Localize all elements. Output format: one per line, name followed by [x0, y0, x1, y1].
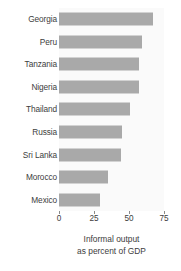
x-axis-tick-label: 25	[89, 214, 98, 223]
bar-track	[59, 188, 164, 211]
bar-track	[59, 8, 164, 31]
bar-row: Morocco	[0, 166, 181, 189]
category-label: Tanzania	[25, 59, 57, 69]
category-label: Mexico	[31, 195, 57, 205]
bar-row: Mexico	[0, 188, 181, 211]
bar	[59, 193, 100, 206]
x-axis-tick-label: 75	[159, 214, 168, 223]
bar-row: Russia	[0, 121, 181, 144]
bar	[59, 148, 121, 161]
bar-row: Thailand	[0, 98, 181, 121]
category-label: Russia	[32, 127, 57, 137]
bar	[59, 35, 142, 48]
bar-track	[59, 76, 164, 99]
bar-track	[59, 98, 164, 121]
category-label: Sri Lanka	[23, 150, 57, 160]
x-axis-tick-label: 0	[57, 214, 62, 223]
bar-chart-figure: GeorgiaPeruTanzaniaNigeriaThailandRussia…	[0, 0, 181, 271]
bar	[59, 171, 108, 184]
caption-line-2: as percent of GDP	[59, 246, 164, 258]
bar-row: Tanzania	[0, 53, 181, 76]
category-label: Georgia	[28, 14, 57, 24]
category-label: Peru	[40, 37, 57, 47]
category-label: Thailand	[26, 104, 57, 114]
bar-row: Nigeria	[0, 76, 181, 99]
bar-rows-container: GeorgiaPeruTanzaniaNigeriaThailandRussia…	[0, 8, 181, 211]
bar-track	[59, 31, 164, 54]
bar-track	[59, 166, 164, 189]
x-axis-tick-label: 50	[124, 214, 133, 223]
bar-row: Peru	[0, 31, 181, 54]
bar	[59, 58, 139, 71]
caption-line-1: Informal output	[59, 234, 164, 246]
bar-track	[59, 143, 164, 166]
x-axis-caption: Informal output as percent of GDP	[59, 234, 164, 257]
bar-row: Sri Lanka	[0, 143, 181, 166]
bar-track	[59, 121, 164, 144]
bar	[59, 80, 139, 93]
bar-track	[59, 53, 164, 76]
bar-row: Georgia	[0, 8, 181, 31]
bar	[59, 103, 130, 116]
bar	[59, 13, 153, 26]
x-axis: 0255075	[59, 211, 164, 227]
category-label: Nigeria	[31, 82, 57, 92]
bar	[59, 126, 122, 139]
category-label: Morocco	[26, 172, 57, 182]
